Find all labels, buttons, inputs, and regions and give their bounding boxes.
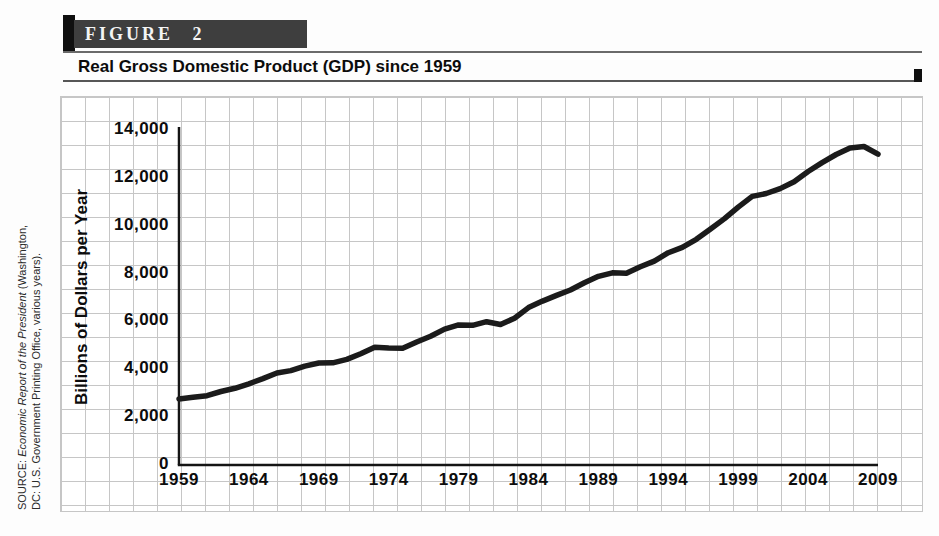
y-axis-title: Billions of Dollars per Year [72,147,94,447]
x-tick-label-1994: 1994 [632,470,704,490]
y-tick-label-12,000: 12,000 [61,167,169,187]
x-tick-label-1974: 1974 [353,470,425,490]
y-tick-label-2,000: 2,000 [61,406,169,426]
x-tick-label-1979: 1979 [423,470,495,490]
header-rule-end-cap [914,69,922,82]
y-tick-label-10,000: 10,000 [61,215,169,235]
x-tick-label-2004: 2004 [772,470,844,490]
figure-page: { "figure": { "label": "FIGURE 2", "titl… [0,0,939,536]
y-tick-label-14,000: 14,000 [61,119,169,139]
y-tick-label-6,000: 6,000 [61,310,169,330]
header-rule-top [63,51,922,53]
figure-label-bar: FIGURE 2 [74,20,307,48]
gdp-plot [61,97,924,513]
source-note: SOURCE: Economic Report of the President… [15,152,45,510]
header-rule-under-title [63,80,922,82]
y-tick-label-4,000: 4,000 [61,358,169,378]
x-tick-label-1984: 1984 [493,470,565,490]
chart-panel: Billions of Dollars per Year 02,0004,000… [60,96,923,512]
gdp-line-series [179,147,878,399]
figure-title: Real Gross Domestic Product (GDP) since … [78,57,462,77]
source-note-location-line1: (Washington, [16,225,28,292]
y-tick-label-8,000: 8,000 [61,263,169,283]
source-note-prefix: SOURCE: [16,457,28,510]
x-tick-label-1964: 1964 [213,470,285,490]
x-tick-label-1959: 1959 [143,470,215,490]
source-note-work-title: Economic Report of the President [16,292,28,456]
x-tick-label-2009: 2009 [842,470,914,490]
figure-label: FIGURE 2 [85,24,205,44]
x-tick-label-1989: 1989 [562,470,634,490]
x-tick-label-1969: 1969 [283,470,355,490]
x-tick-label-1999: 1999 [702,470,774,490]
source-note-location-line2: DC: U.S. Government Printing Office, var… [30,253,42,510]
